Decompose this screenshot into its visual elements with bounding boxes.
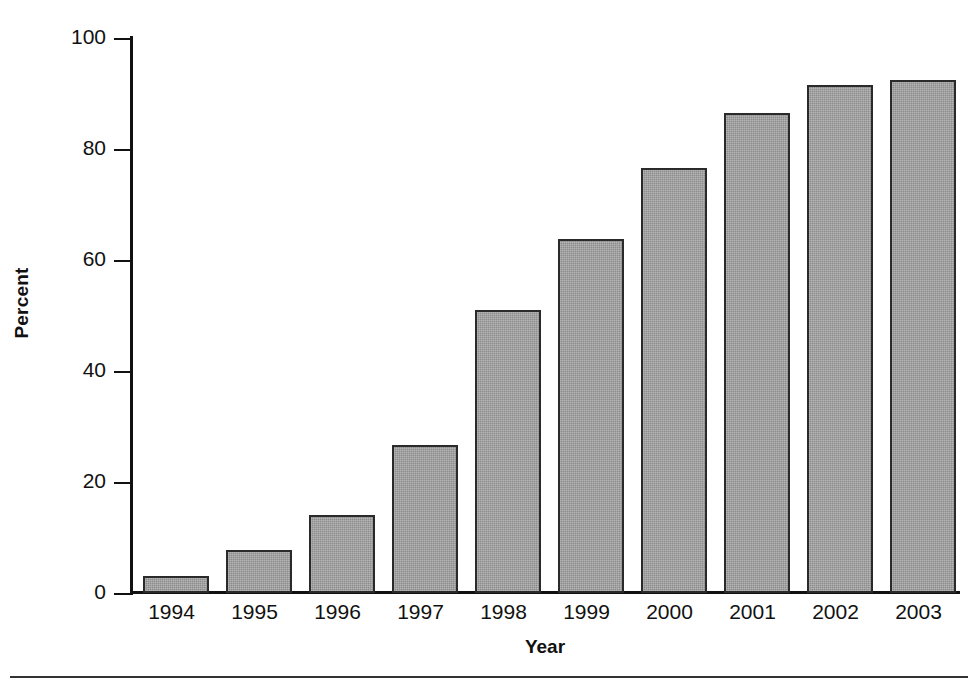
y-axis-tick <box>114 371 130 373</box>
bar-2001 <box>724 113 790 593</box>
bar-1999 <box>558 239 624 593</box>
x-axis-tick-label-1996: 1996 <box>296 600 379 624</box>
y-axis-tick <box>114 149 130 151</box>
y-axis-tick-label: 40 <box>38 358 106 382</box>
bar-1995 <box>226 550 292 593</box>
x-axis-title: Year <box>130 636 960 658</box>
x-axis-tick-label-2000: 2000 <box>628 600 711 624</box>
bar-chart-figure: Percent 020406080100 1994199519961997199… <box>0 0 979 696</box>
y-axis-tick-label: 100 <box>38 25 106 49</box>
bar-1997 <box>392 445 458 593</box>
bar-series <box>130 38 960 593</box>
bar-2003 <box>890 80 956 593</box>
bar-1998 <box>475 310 541 593</box>
y-axis-tick-label: 20 <box>38 469 106 493</box>
footer-rule <box>10 676 968 678</box>
x-axis-tick-label-1994: 1994 <box>130 600 213 624</box>
y-axis-tick <box>114 38 130 40</box>
y-axis-tick <box>114 482 130 484</box>
bar-1996 <box>309 515 375 593</box>
x-axis-tick-label-2001: 2001 <box>711 600 794 624</box>
bar-2002 <box>807 85 873 593</box>
x-axis-tick-label-1998: 1998 <box>462 600 545 624</box>
y-axis-tick <box>114 260 130 262</box>
x-axis-tick-label-1997: 1997 <box>379 600 462 624</box>
y-axis-tick <box>114 593 130 595</box>
y-axis-title: Percent <box>11 243 33 363</box>
x-axis-tick-label-2002: 2002 <box>794 600 877 624</box>
y-axis-tick-label: 60 <box>38 247 106 271</box>
bar-1994 <box>143 576 209 593</box>
x-axis-tick-label-1995: 1995 <box>213 600 296 624</box>
x-axis-tick-label-2003: 2003 <box>877 600 960 624</box>
x-axis-tick-labels: 1994199519961997199819992000200120022003 <box>130 600 960 630</box>
bar-2000 <box>641 168 707 593</box>
y-axis-tick-label: 80 <box>38 136 106 160</box>
x-axis-tick-label-1999: 1999 <box>545 600 628 624</box>
y-axis-tick-label: 0 <box>38 580 106 604</box>
